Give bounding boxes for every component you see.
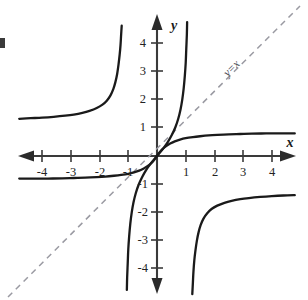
y-axis-top-arrowhead xyxy=(152,14,163,30)
x-tick-label: -4 xyxy=(37,165,48,179)
x-axis-left-arrowhead xyxy=(18,151,34,162)
y-tick-label: -1 xyxy=(138,177,148,191)
x-tick-label: -3 xyxy=(66,165,76,179)
y-axis-label: y xyxy=(169,18,178,33)
x-axis-right-arrowhead xyxy=(280,151,296,162)
coordinate-plane-plot: -4 -3 -2 -1 1 2 3 4 4 3 2 1 -1 -2 -3 -4 … xyxy=(0,0,308,300)
y-axis-bottom-arrowhead xyxy=(152,278,163,294)
graph-figure: -4 -3 -2 -1 1 2 3 4 4 3 2 1 -1 -2 -3 -4 … xyxy=(0,0,308,300)
y-tick-label: 3 xyxy=(140,64,146,78)
y-tick-label: 2 xyxy=(140,92,146,106)
y-tick-label: -3 xyxy=(138,233,148,247)
y-equals-x-label: y=x xyxy=(220,57,243,80)
y-tick-label: 1 xyxy=(140,120,146,134)
curve-tangent-like-steep-curve-lower-right-branch xyxy=(192,195,294,294)
x-axis-label: x xyxy=(286,135,294,150)
y-tick-label: 4 xyxy=(140,36,147,50)
x-tick-label: 4 xyxy=(269,165,276,179)
x-tick-label: 2 xyxy=(212,165,218,179)
x-tick-label: 1 xyxy=(183,165,189,179)
y-tick-label: -4 xyxy=(138,261,149,275)
x-tick-label: 3 xyxy=(240,165,246,179)
x-tick-label: -1 xyxy=(123,165,133,179)
y-axis xyxy=(152,14,163,294)
y-tick-label: -2 xyxy=(138,205,148,219)
curve-tangent-like-steep-curve-upper-left-branch xyxy=(19,26,121,119)
x-tick-label: -2 xyxy=(95,165,105,179)
dashed-reference-line-y-equals-x xyxy=(8,6,300,297)
